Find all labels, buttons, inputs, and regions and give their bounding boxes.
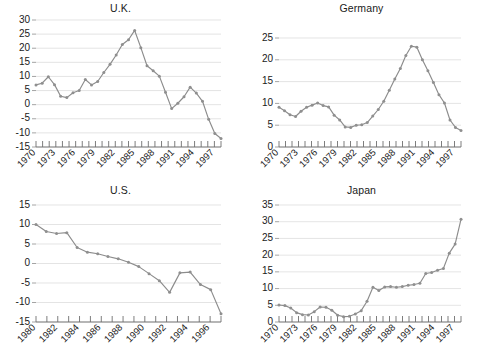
data-point-marker-germany	[415, 46, 418, 49]
x-tick-label-japan: 1994	[414, 322, 437, 345]
data-point-marker-japan	[301, 313, 304, 316]
data-point-marker-germany	[305, 106, 308, 109]
data-point-marker-germany	[333, 114, 336, 117]
data-point-marker-japan	[371, 286, 374, 289]
data-point-marker-us	[137, 265, 140, 268]
data-point-marker-japan	[360, 309, 363, 312]
data-point-marker-us	[86, 251, 89, 254]
x-tick-label-japan: 1973	[277, 322, 300, 345]
chart-panel-uk: U.K.302520151050-5-10-151970197319761979…	[0, 0, 241, 182]
data-point-marker-germany	[371, 115, 374, 118]
data-point-marker-germany	[355, 124, 358, 127]
chart-panel-us: U.S.151050-5-10-151980198219841986198819…	[0, 182, 241, 364]
x-tick-label-japan: 1985	[355, 322, 378, 345]
data-point-marker-uk	[41, 82, 44, 85]
y-tick-label-us: 10	[19, 218, 31, 229]
x-tick-label-germany: 1970	[258, 147, 281, 170]
chart-plot-uk: 302520151050-5-10-1519701973197619791982…	[0, 0, 241, 182]
data-point-marker-uk	[78, 89, 81, 92]
x-tick-label-germany: 1973	[277, 147, 300, 170]
data-point-marker-japan	[289, 306, 292, 309]
y-tick-label-japan: 20	[262, 249, 274, 260]
data-point-marker-us	[45, 230, 48, 233]
data-point-marker-uk	[176, 102, 179, 105]
x-tick-label-uk: 1976	[54, 147, 77, 170]
data-series-line-japan	[279, 219, 461, 316]
data-point-marker-japan	[278, 303, 281, 306]
data-point-marker-germany	[421, 58, 424, 61]
x-tick-label-germany: 1985	[355, 147, 378, 170]
y-tick-label-uk: 0	[24, 98, 30, 109]
data-point-marker-uk	[170, 107, 173, 110]
data-point-marker-uk	[158, 75, 161, 78]
data-point-marker-uk	[90, 83, 93, 86]
y-tick-label-germany: 25	[262, 32, 274, 43]
data-point-marker-japan	[313, 310, 316, 313]
data-point-marker-japan	[366, 300, 369, 303]
x-tick-label-germany: 1988	[375, 147, 398, 170]
y-tick-label-us: 15	[19, 199, 31, 210]
y-tick-label-uk: 20	[19, 42, 31, 53]
x-tick-label-japan: 1991	[394, 322, 417, 345]
data-point-marker-uk	[213, 132, 216, 135]
y-tick-label-uk: -5	[21, 112, 30, 123]
data-point-marker-japan	[424, 272, 427, 275]
chart-plot-japan: 3530252015105019701973197619791982198519…	[241, 182, 482, 364]
data-point-marker-uk	[47, 75, 50, 78]
y-tick-label-japan: 15	[262, 265, 274, 276]
data-series-line-germany	[279, 46, 461, 130]
data-point-marker-japan	[389, 285, 392, 288]
x-tick-label-us: 1988	[102, 322, 125, 345]
data-point-marker-us	[189, 271, 192, 274]
data-series-line-us	[36, 225, 221, 314]
data-point-marker-us	[158, 279, 161, 282]
y-tick-label-germany: 20	[262, 53, 274, 64]
data-point-marker-us	[65, 231, 68, 234]
data-point-marker-japan	[454, 243, 457, 246]
x-tick-label-uk: 1973	[35, 147, 58, 170]
data-point-marker-japan	[377, 289, 380, 292]
x-tick-label-germany: 1979	[316, 147, 339, 170]
data-point-marker-japan	[336, 314, 339, 317]
data-point-marker-germany	[410, 45, 413, 48]
y-tick-label-japan: 25	[262, 232, 274, 243]
chart-title-japan: Japan	[241, 184, 482, 196]
x-tick-label-us: 1996	[189, 322, 212, 345]
x-tick-label-uk: 1991	[153, 147, 176, 170]
four-panel-line-chart-figure: U.K.302520151050-5-10-151970197319761979…	[0, 0, 482, 364]
data-point-marker-uk	[72, 91, 75, 94]
y-tick-label-uk: 10	[19, 70, 31, 81]
data-point-marker-japan	[319, 305, 322, 308]
data-point-marker-uk	[220, 137, 223, 140]
x-tick-label-uk: 1988	[134, 147, 157, 170]
data-point-marker-japan	[295, 311, 298, 314]
y-tick-label-japan: 30	[262, 215, 274, 226]
y-tick-label-uk: 30	[19, 14, 31, 25]
data-point-marker-uk	[183, 95, 186, 98]
x-tick-label-us: 1992	[145, 322, 168, 345]
data-point-marker-germany	[327, 105, 330, 108]
data-point-marker-germany	[338, 118, 341, 121]
data-point-marker-japan	[460, 218, 463, 221]
data-point-marker-japan	[448, 252, 451, 255]
data-point-marker-japan	[283, 304, 286, 307]
data-point-marker-uk	[59, 95, 62, 98]
y-tick-label-japan: 5	[267, 299, 273, 310]
data-point-marker-uk	[121, 43, 124, 46]
data-point-marker-uk	[195, 92, 198, 95]
data-point-marker-germany	[448, 118, 451, 121]
data-point-marker-germany	[432, 81, 435, 84]
data-point-marker-germany	[283, 109, 286, 112]
data-point-marker-uk	[146, 64, 149, 67]
y-tick-label-japan: 35	[262, 199, 274, 210]
x-tick-label-uk: 1994	[173, 147, 196, 170]
y-tick-label-uk: 5	[24, 84, 30, 95]
data-point-marker-japan	[395, 286, 398, 289]
data-point-marker-germany	[289, 113, 292, 116]
data-point-marker-germany	[393, 77, 396, 80]
y-tick-label-japan: 10	[262, 282, 274, 293]
y-tick-label-germany: 5	[267, 119, 273, 130]
data-point-marker-germany	[454, 126, 457, 129]
y-tick-label-us: -5	[21, 277, 30, 288]
data-point-marker-germany	[388, 89, 391, 92]
